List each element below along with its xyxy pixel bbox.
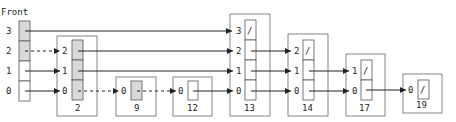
node-2-level-1: 1	[62, 66, 67, 76]
node-17-level-0: 0	[352, 86, 357, 96]
skip-list-diagram: Front 3 2 1 0 2 1 0 2 0 9 0 12 3 / 2	[0, 0, 456, 122]
diagram-canvas: Front 3 2 1 0 2 1 0 2 0 9 0 12 3 / 2	[0, 0, 456, 122]
front-cell-2	[19, 41, 30, 61]
node-13-key: 13	[244, 103, 255, 113]
front-level-2: 2	[6, 46, 11, 56]
node-2-key: 2	[75, 103, 80, 113]
node-19-key: 19	[416, 100, 427, 110]
node-13-level-0: 0	[236, 86, 241, 96]
node-2-level-2: 2	[62, 46, 67, 56]
front-level-1: 1	[6, 66, 11, 76]
node-13-null-3: /	[247, 26, 252, 36]
node-13-level-3: 3	[236, 26, 241, 36]
node-2-level-0: 0	[62, 86, 67, 96]
node-14-level-0: 0	[294, 86, 299, 96]
node-17-key: 17	[359, 103, 370, 113]
node-9-key: 9	[134, 103, 139, 113]
node-14-key: 14	[302, 103, 313, 113]
front-label: Front	[1, 7, 28, 17]
node-14-level-2: 2	[294, 46, 299, 56]
node-12-key: 12	[187, 103, 198, 113]
front-column	[19, 21, 30, 101]
node-17-null-1: /	[363, 66, 368, 76]
front-level-3: 3	[6, 26, 11, 36]
node-19-null-0: /	[420, 85, 425, 95]
node-14-null-2: /	[305, 46, 310, 56]
node-12-level-0: 0	[178, 86, 183, 96]
node-14-level-1: 1	[294, 66, 299, 76]
node-9-level-0: 0	[121, 86, 126, 96]
node-19-level-0: 0	[408, 85, 413, 95]
node-13-level-1: 1	[236, 66, 241, 76]
node-17-level-1: 1	[352, 66, 357, 76]
front-level-0: 0	[6, 86, 11, 96]
node-13-level-2: 2	[236, 46, 241, 56]
